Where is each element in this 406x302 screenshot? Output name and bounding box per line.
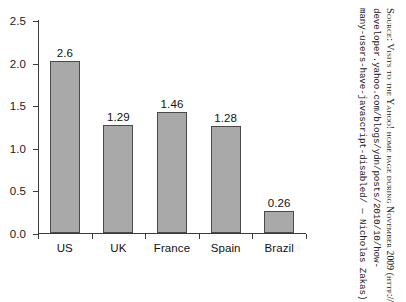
y-tick-mark: 1.0	[33, 149, 38, 150]
x-tick-mark	[38, 234, 39, 239]
x-tick-mark	[199, 234, 200, 239]
y-tick-label: 2.0	[10, 58, 26, 70]
bar: 1.28	[211, 126, 241, 233]
y-axis-line	[38, 20, 39, 234]
plot-area: 0.00.51.01.52.02.5 2.61.291.461.280.26 U…	[38, 20, 306, 234]
x-category-label: Brazil	[265, 242, 294, 254]
x-tick-mark	[252, 234, 253, 239]
bar-value-label: 1.46	[161, 98, 184, 110]
y-tick-label: 1.0	[10, 143, 26, 155]
bar: 0.26	[264, 211, 294, 233]
y-tick-mark: 2.5	[33, 21, 38, 22]
x-tick-mark	[145, 234, 146, 239]
x-category-label: UK	[110, 242, 126, 254]
y-tick-label: 2.5	[10, 15, 26, 27]
source-note: Source: Visits to the Yahoo! home page d…	[352, 8, 404, 256]
x-axis-line	[38, 233, 306, 234]
bar: 1.46	[157, 112, 187, 233]
y-tick-label: 1.5	[10, 100, 26, 112]
source-note-line-3: many-users-have-javascript-disabled/ — N…	[357, 8, 368, 300]
y-tick-mark: 1.5	[33, 106, 38, 107]
source-label: Source:	[385, 8, 396, 41]
bar: 1.29	[103, 125, 133, 233]
x-category-label: Spain	[211, 242, 241, 254]
source-note-line-2: developer.yahoo.com/blogs/ydn/posts/2010…	[371, 8, 382, 268]
x-tick-mark	[92, 234, 93, 239]
bar-value-label: 1.28	[214, 112, 237, 124]
y-tick-label: 0.5	[10, 185, 26, 197]
bar-value-label: 2.6	[57, 47, 73, 59]
source-note-line-1: Source: Visits to the Yahoo! home page d…	[385, 8, 396, 302]
y-tick-mark: 0.5	[33, 191, 38, 192]
x-tick-mark	[306, 234, 307, 239]
y-tick-label: 0.0	[10, 228, 26, 240]
bar: 2.6	[50, 61, 80, 233]
x-category-label: France	[154, 242, 190, 254]
bar-value-label: 1.29	[107, 111, 130, 123]
x-category-label: US	[57, 242, 73, 254]
source-citation-text: Visits to the Yahoo! home page during No…	[385, 41, 396, 302]
y-tick-mark: 2.0	[33, 64, 38, 65]
bar-value-label: 0.26	[268, 197, 291, 209]
